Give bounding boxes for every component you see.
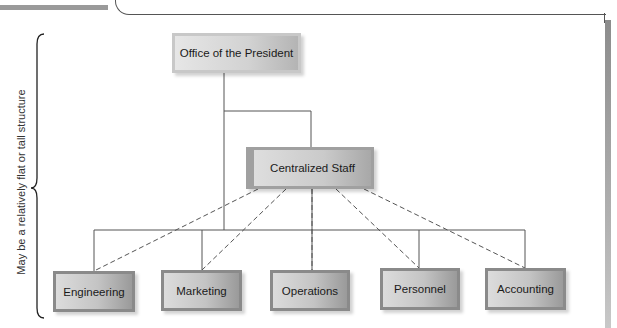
node-label: Accounting xyxy=(497,283,554,295)
node-label: Personnel xyxy=(394,283,446,295)
node-personnel: Personnel xyxy=(380,268,460,310)
node-office-of-the-president: Office of the President xyxy=(172,33,301,73)
node-marketing: Marketing xyxy=(161,270,242,311)
structure-label: May be a relatively flat or tall structu… xyxy=(15,67,31,297)
node-engineering: Engineering xyxy=(53,271,135,312)
node-label: Engineering xyxy=(63,286,124,298)
node-label: Marketing xyxy=(176,285,227,297)
node-centralized-staff: Centralized Staff xyxy=(246,147,374,189)
node-accounting: Accounting xyxy=(485,268,566,310)
node-label: Centralized Staff xyxy=(270,162,355,174)
node-label: Office of the President xyxy=(180,47,294,59)
node-label: Operations xyxy=(282,285,338,297)
node-operations: Operations xyxy=(270,270,350,311)
brace-icon xyxy=(31,34,44,318)
